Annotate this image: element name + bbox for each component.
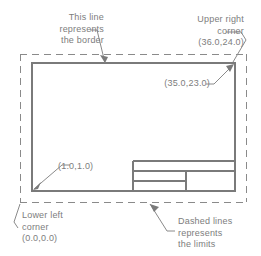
coordinate-label-inner-top-right: (35.0,23.0) [138, 78, 210, 90]
leader-lower-left-note [14, 204, 20, 228]
diagram-canvas: This line represents the border Upper ri… [0, 0, 261, 256]
annotation-border-note: This line represents the border [18, 12, 104, 47]
arrowhead-inner-bottom-left [33, 182, 41, 190]
leader-lines [14, 30, 246, 231]
arrowhead-dashed-note [150, 204, 159, 212]
coordinate-label-inner-bottom-left: (1.0,1.0) [58, 161, 118, 173]
annotation-lower-left-corner: Lower left corner (0.0,0.0) [22, 210, 112, 245]
arrowhead-border-note [100, 55, 108, 63]
annotation-dashed-limits-note: Dashed lines represents the limits [178, 216, 258, 251]
annotation-upper-right-corner: Upper right corner (36.0,24.0) [152, 14, 244, 49]
title-block [133, 161, 235, 191]
